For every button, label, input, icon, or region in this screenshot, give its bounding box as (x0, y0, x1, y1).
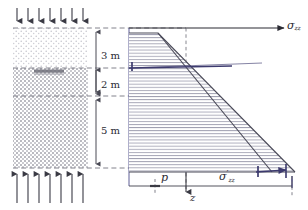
soil-column (13, 28, 88, 168)
sigma-effective-label: σ′zz (219, 170, 235, 183)
sigma-zz-axis-label: σzz (287, 20, 300, 31)
p-label: p (161, 172, 168, 183)
bottom-annotation-dimensions (129, 176, 292, 196)
figure-canvas (0, 0, 308, 210)
total-stress-area (129, 33, 295, 172)
sigma-effective-subscript: zz (229, 176, 235, 183)
water-table-marker (34, 70, 64, 75)
dimension-5m-label: 5 m (101, 126, 120, 136)
stress-distribution-block (129, 33, 295, 172)
z-axis-label: z (190, 193, 195, 203)
sigma-subscript: zz (295, 24, 301, 31)
sigma-effective-symbol: σ (219, 170, 227, 183)
sigma-symbol: σ (287, 19, 295, 32)
figure-root: 3 m 2 m 5 m σzz z p σ′zz (0, 0, 308, 210)
surface-load-arrows (17, 8, 83, 21)
dimension-3m-label: 3 m (101, 51, 120, 61)
dimension-2m-label: 2 m (101, 80, 120, 90)
base-reaction-arrows (17, 174, 83, 203)
upper-dry-layer (13, 28, 88, 68)
lower-saturated-layer (13, 68, 88, 168)
